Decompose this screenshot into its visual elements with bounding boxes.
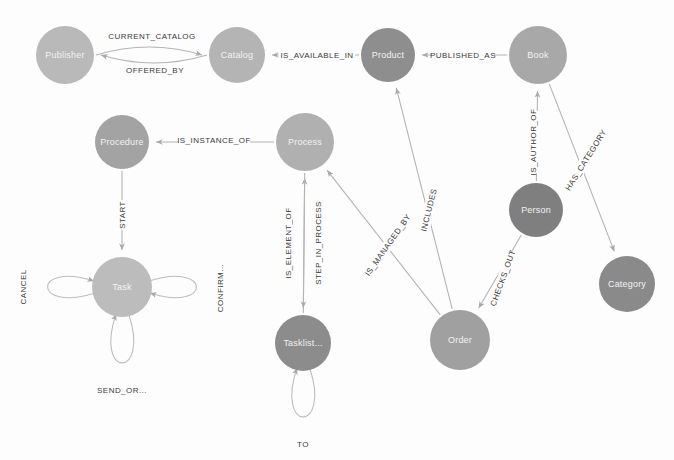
svg-text:IS_MANAGED_BY: IS_MANAGED_BY xyxy=(363,212,413,277)
svg-text:SEND_OR...: SEND_OR... xyxy=(97,386,147,395)
graph-edge-label: PUBLISHED_AS xyxy=(430,50,496,61)
svg-text:TO: TO xyxy=(297,440,309,449)
graph-self-loop-label: SEND_OR... xyxy=(96,385,149,396)
graph-node-label: Process xyxy=(288,137,322,147)
graph-edge-label: CURRENT_CATALOG xyxy=(108,31,195,42)
edges-layer xyxy=(96,47,614,315)
self-loops-layer xyxy=(48,276,315,417)
graph-node-label: Procedure xyxy=(100,137,143,147)
graph-edge-label: IS_AVAILABLE_IN xyxy=(279,50,356,61)
graph-edge xyxy=(96,47,202,55)
graph-node-label: Order xyxy=(448,335,472,345)
graph-node-label: Product xyxy=(372,50,405,60)
graph-edge-label: IS_INSTANCE_OF xyxy=(177,135,251,146)
graph-node-label: Catalog xyxy=(221,50,253,60)
graph-node-label: Task xyxy=(112,282,132,292)
graph-self-loop-label: TO xyxy=(295,439,310,450)
svg-text:CANCEL: CANCEL xyxy=(19,269,28,304)
graph-edge-label: IS_AUTHOR_OF xyxy=(528,109,539,176)
graph-edge-label: CHECKS_OUT xyxy=(488,248,519,307)
graph-self-loop-label: CONFIRM... xyxy=(215,262,226,315)
graph-edge xyxy=(396,88,452,309)
nodes-layer: PublisherCatalogProductBookProcedureProc… xyxy=(36,26,655,371)
svg-text:CHECKS_OUT: CHECKS_OUT xyxy=(489,249,518,308)
graph-edge-label: IS_MANAGED_BY xyxy=(362,212,413,279)
graph-edge-label: OFFERED_BY xyxy=(126,65,184,76)
svg-text:START: START xyxy=(118,201,127,229)
graph-node-label: Person xyxy=(521,205,551,215)
graph-edge-label: STEP_IN_PROCESS xyxy=(313,201,324,285)
svg-text:IS_AUTHOR_OF: IS_AUTHOR_OF xyxy=(529,109,538,176)
svg-text:STEP_IN_PROCESS: STEP_IN_PROCESS xyxy=(314,201,323,285)
graph-edge-label: START xyxy=(117,200,128,230)
svg-text:IS_INSTANCE_OF: IS_INSTANCE_OF xyxy=(177,136,251,145)
graph-edge-label: IS_ELEMENT_OF xyxy=(283,207,294,278)
svg-text:IS_AVAILABLE_IN: IS_AVAILABLE_IN xyxy=(280,51,353,60)
graph-node-label: Publisher xyxy=(45,50,84,60)
graph-self-loop xyxy=(48,276,95,297)
svg-text:IS_ELEMENT_OF: IS_ELEMENT_OF xyxy=(284,207,293,278)
svg-text:PUBLISHED_AS: PUBLISHED_AS xyxy=(430,51,496,60)
edge-labels-layer: CURRENT_CATALOGOFFERED_BYIS_AVAILABLE_IN… xyxy=(18,31,610,450)
graph-edge-label: INCLUDES xyxy=(418,187,439,232)
svg-text:CONFIRM...: CONFIRM... xyxy=(216,264,225,313)
graph-self-loop xyxy=(111,314,134,363)
svg-text:OFFERED_BY: OFFERED_BY xyxy=(126,66,184,75)
graph-diagram[interactable]: PublisherCatalogProductBookProcedureProc… xyxy=(0,0,674,460)
graph-node-label: Tasklist... xyxy=(283,338,322,348)
svg-text:INCLUDES: INCLUDES xyxy=(419,188,438,233)
graph-canvas[interactable]: PublisherCatalogProductBookProcedureProc… xyxy=(0,0,674,460)
graph-self-loop-label: CANCEL xyxy=(18,269,29,304)
graph-edge xyxy=(101,55,207,63)
svg-text:CURRENT_CATALOG: CURRENT_CATALOG xyxy=(108,32,195,41)
graph-edge xyxy=(303,173,304,308)
graph-node-label: Book xyxy=(527,50,549,60)
graph-self-loop xyxy=(149,276,196,297)
graph-node-label: Category xyxy=(608,279,646,289)
graph-self-loop xyxy=(292,368,315,417)
